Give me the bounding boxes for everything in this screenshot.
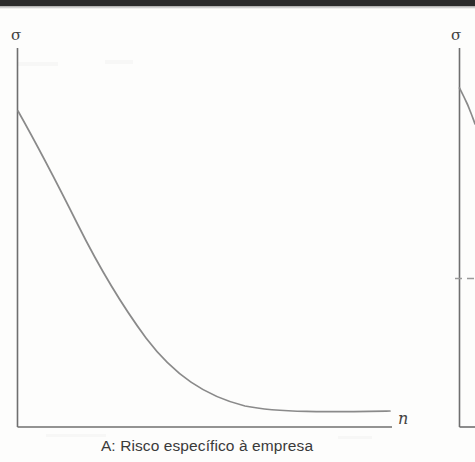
y-axis-label-sigma-b: σ bbox=[451, 28, 461, 43]
chart-b-plot bbox=[430, 0, 475, 462]
chart-panel-b: σ bbox=[430, 0, 475, 462]
panel-a-caption: A: Risco específico à empresa bbox=[0, 437, 414, 455]
x-axis-label-n-a: n bbox=[398, 411, 408, 427]
firm-specific-risk-curve bbox=[18, 111, 390, 412]
chart-panel-a: σ n A: Risco específico à empresa bbox=[0, 0, 430, 462]
figure-page: σ n A: Risco específico à empresa σ bbox=[0, 0, 475, 462]
total-risk-curve-b bbox=[460, 88, 475, 124]
y-axis-label-sigma-a: σ bbox=[11, 28, 21, 43]
chart-a-plot bbox=[0, 0, 430, 462]
